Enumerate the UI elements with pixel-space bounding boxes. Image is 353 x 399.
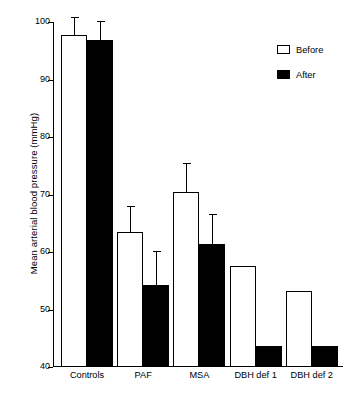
bar-group [230, 22, 282, 367]
y-tick-label: 100 [24, 16, 50, 26]
bar-after [199, 244, 225, 367]
error-bar-cap [153, 251, 161, 252]
bar-after [256, 346, 282, 367]
error-bar-stem [100, 21, 101, 40]
error-bar-stem [212, 214, 213, 244]
error-bar-cap [127, 206, 135, 207]
bar-after [143, 285, 169, 367]
y-tick-label: 60 [24, 246, 50, 256]
x-tick-label: DBH def 2 [272, 370, 352, 380]
bar-group [61, 22, 113, 367]
legend-label-after: After [296, 70, 316, 80]
bar-group [173, 22, 225, 367]
bar-after [87, 40, 113, 367]
y-tick-label: 80 [24, 131, 50, 141]
bar-before [117, 232, 143, 367]
y-tick-label: 50 [24, 304, 50, 314]
y-tick-label: 90 [24, 74, 50, 84]
y-axis-line [53, 22, 54, 367]
error-bar-cap [97, 21, 105, 22]
legend-label-before: Before [296, 45, 323, 55]
error-bar-stem [130, 206, 131, 232]
bar-before [286, 291, 312, 367]
bar-before [61, 35, 87, 367]
legend: Before After [277, 44, 323, 94]
bar-group [117, 22, 169, 367]
error-bar-cap [183, 163, 191, 164]
open-square-swatch-icon [277, 45, 290, 54]
error-bar-stem [156, 251, 157, 285]
bar-after [312, 346, 338, 367]
y-tick-label: 70 [24, 189, 50, 199]
error-bar-stem [186, 163, 187, 192]
bar-before [230, 266, 256, 367]
legend-item-after: After [277, 69, 323, 80]
error-bar-stem [74, 17, 75, 35]
bar-chart: Mean arterial blood pressure (mmHg) 4050… [0, 0, 353, 399]
filled-square-swatch-icon [277, 70, 290, 79]
error-bar-cap [209, 214, 217, 215]
bar-before [173, 192, 199, 367]
legend-item-before: Before [277, 44, 323, 55]
error-bar-cap [71, 17, 79, 18]
